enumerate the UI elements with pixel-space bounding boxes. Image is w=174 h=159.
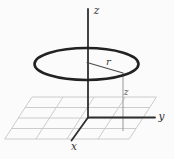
height-label: z — [123, 87, 129, 97]
radius-label: r — [106, 56, 112, 67]
x-axis-label: x — [71, 140, 77, 152]
x-axis-line — [72, 118, 89, 141]
coordinate-diagram: z y x r z — [0, 0, 174, 159]
radius-line — [87, 63, 123, 74]
diagram-canvas: z y x r z — [0, 0, 174, 159]
circle-loop — [35, 48, 139, 80]
z-axis-label: z — [93, 4, 100, 16]
y-axis-label: y — [158, 110, 166, 122]
